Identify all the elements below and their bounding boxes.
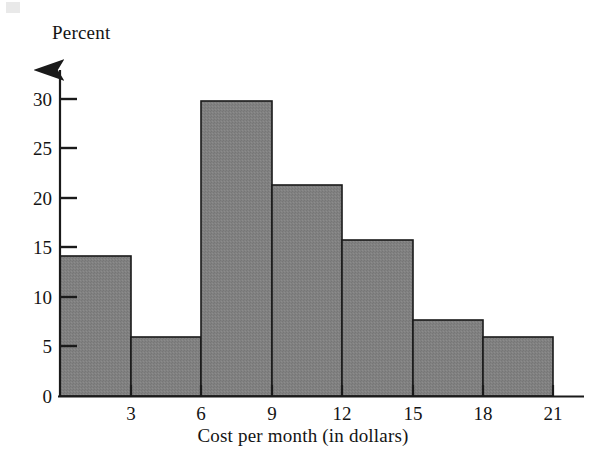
bar-3-6 <box>131 337 201 396</box>
bar-18-21 <box>483 337 553 396</box>
bar-6-9 <box>201 101 272 396</box>
bar-15-18 <box>413 320 483 396</box>
histogram-figure: Percent Cost per month (in dollars) 30 2… <box>0 0 606 471</box>
bars-group <box>60 101 553 396</box>
bar-9-12 <box>272 185 342 396</box>
plot-area <box>0 0 606 471</box>
bar-0-3 <box>60 256 131 396</box>
bar-12-15 <box>342 240 413 396</box>
